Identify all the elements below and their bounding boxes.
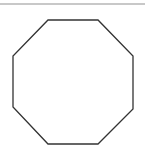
octagon-shape	[13, 20, 133, 144]
diagram-canvas	[0, 0, 145, 148]
